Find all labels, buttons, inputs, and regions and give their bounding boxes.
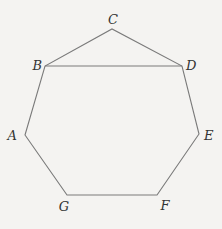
heptagon-outline: [25, 29, 199, 195]
vertex-label-f: F: [159, 198, 170, 213]
heptagon-figure: ABCDEFG: [0, 0, 222, 229]
vertex-labels: ABCDEFG: [7, 12, 214, 214]
vertex-label-b: B: [31, 58, 42, 73]
vertex-label-c: C: [108, 12, 118, 27]
vertex-label-e: E: [203, 128, 214, 143]
diagram-canvas: ABCDEFG: [0, 0, 222, 229]
vertex-label-a: A: [7, 128, 17, 143]
vertex-label-d: D: [185, 58, 197, 73]
vertex-label-g: G: [59, 199, 69, 214]
